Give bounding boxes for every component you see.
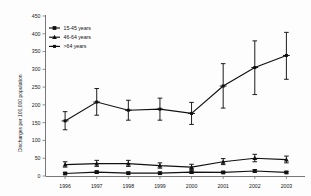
- y-tick-label: 350: [32, 48, 41, 54]
- data-point-marker: [190, 170, 194, 174]
- data-point-marker: [126, 171, 130, 175]
- legend-item-2: >64 years: [49, 43, 87, 49]
- legend-label: >64 years: [64, 43, 87, 49]
- y-tick-label: 0: [38, 173, 41, 179]
- series-46-64-years: [63, 154, 289, 169]
- y-tick-label: 400: [32, 31, 41, 37]
- series-15-45-years: [63, 169, 289, 175]
- series--64-years: [62, 32, 290, 129]
- chart-legend: 15-45 years46-64 years>64 years: [49, 25, 91, 49]
- y-tick-label: 200: [32, 102, 41, 108]
- x-tick-label: 1996: [59, 183, 71, 189]
- legend-item-0: 15-45 years: [49, 25, 91, 31]
- x-tick-label: 2003: [281, 183, 293, 189]
- y-tick-label: 250: [32, 84, 41, 90]
- data-point-marker: [95, 170, 99, 174]
- x-tick-label: 1998: [123, 183, 135, 189]
- x-tick-label: 2002: [249, 183, 261, 189]
- y-axis-title: Discharges per 100,000 population: [17, 74, 23, 152]
- y-tick-label: 100: [32, 137, 41, 143]
- data-point-marker: [63, 172, 67, 176]
- x-tick-label: 1997: [91, 183, 103, 189]
- data-point-marker: [158, 171, 162, 175]
- line-chart: Discharges per 100,000 population 050100…: [0, 0, 311, 196]
- data-point-marker: [53, 26, 57, 30]
- chart-figure: Discharges per 100,000 population 050100…: [0, 0, 311, 196]
- legend-label: 15-45 years: [64, 25, 92, 31]
- y-tick-label: 300: [32, 66, 41, 72]
- x-tick-label: 1999: [154, 183, 166, 189]
- legend-label: 46-64 years: [64, 34, 92, 40]
- legend-item-1: 46-64 years: [49, 34, 91, 40]
- series-layer: [62, 32, 290, 175]
- data-point-marker: [285, 171, 289, 175]
- y-tick-label: 50: [35, 155, 41, 161]
- y-tick-label: 450: [32, 13, 41, 19]
- data-point-marker: [253, 169, 257, 173]
- x-axis-ticks: 19961997199819992000200120022003: [59, 177, 292, 190]
- x-tick-label: 2000: [186, 183, 198, 189]
- y-tick-label: 150: [32, 120, 41, 126]
- x-tick-label: 2001: [217, 183, 229, 189]
- y-axis-ticks: 050100150200250300350400450: [32, 13, 46, 179]
- data-point-marker: [221, 171, 225, 175]
